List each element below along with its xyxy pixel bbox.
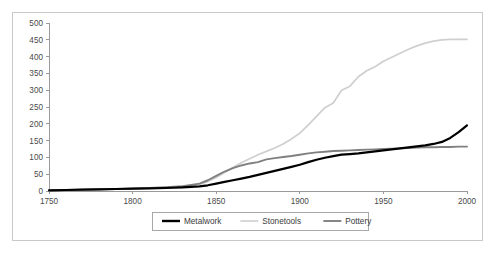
series-line-metalwork [49, 125, 467, 190]
x-tick-label: 1950 [374, 197, 393, 206]
x-tick-label: 1850 [207, 197, 226, 206]
y-tick-label: 50 [34, 170, 44, 179]
legend-label-pottery: Pottery [345, 217, 372, 226]
line-chart: 050100150200250300350400450500 175018001… [13, 13, 484, 242]
series-line-pottery [49, 147, 467, 191]
y-tick-label: 100 [29, 153, 43, 162]
x-tick-label: 1900 [291, 197, 310, 206]
y-axis-tick-group: 050100150200250300350400450500 [29, 19, 49, 196]
y-tick-label: 400 [29, 53, 43, 62]
y-tick-label: 300 [29, 86, 43, 95]
x-tick-label: 1750 [40, 197, 59, 206]
legend-label-metalwork: Metalwork [184, 217, 222, 226]
x-axis-tick-group: 175018001850190019502000 [40, 191, 477, 206]
y-tick-label: 200 [29, 120, 43, 129]
series-line-stonetools [49, 39, 467, 190]
y-tick-label: 450 [29, 36, 43, 45]
chart-frame: 050100150200250300350400450500 175018001… [12, 12, 483, 241]
y-tick-label: 150 [29, 137, 43, 146]
y-tick-label: 0 [38, 187, 43, 196]
chart-legend: MetalworkStonetoolsPottery [152, 212, 372, 230]
y-tick-label: 250 [29, 103, 43, 112]
x-tick-label: 2000 [458, 197, 477, 206]
legend-label-stonetools: Stonetools [262, 217, 301, 226]
y-tick-label: 500 [29, 19, 43, 28]
series-group [49, 39, 467, 190]
x-tick-label: 1800 [123, 197, 142, 206]
y-tick-label: 350 [29, 69, 43, 78]
